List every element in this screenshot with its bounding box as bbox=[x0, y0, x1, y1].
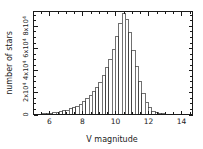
histogram-bar bbox=[63, 111, 66, 115]
y-axis-tick-labels: 02x1044x1046x1048x104 bbox=[22, 16, 30, 116]
histogram-bar bbox=[115, 37, 118, 115]
histogram-bar bbox=[109, 59, 112, 114]
histogram-bar bbox=[125, 19, 128, 114]
x-tick-label: 6 bbox=[47, 117, 52, 126]
y-axis-title: number of stars bbox=[5, 31, 14, 95]
histogram-bar bbox=[79, 104, 82, 114]
histogram-bar bbox=[119, 24, 122, 115]
y-tick-label: 6x104 bbox=[22, 38, 30, 58]
x-tick-label: 12 bbox=[144, 117, 154, 126]
y-tick-label: 2x104 bbox=[22, 83, 30, 103]
histogram-bar bbox=[139, 81, 142, 114]
y-tick-label: 0 bbox=[22, 112, 30, 116]
star-magnitude-histogram: 68101214 02x1044x1046x1048x104 V magnitu… bbox=[0, 0, 203, 149]
y-tick-label: 4x104 bbox=[22, 60, 30, 80]
histogram-bar bbox=[102, 76, 105, 115]
histogram-bar bbox=[112, 49, 115, 114]
histogram-bar bbox=[76, 106, 79, 114]
histogram-figure: 68101214 02x1044x1046x1048x104 V magnitu… bbox=[0, 0, 203, 149]
histogram-bar bbox=[86, 99, 89, 115]
histogram-bar bbox=[129, 33, 132, 115]
histogram-bar bbox=[145, 102, 148, 114]
x-tick-label: 14 bbox=[177, 117, 187, 126]
x-tick-label: 8 bbox=[80, 117, 85, 126]
histogram-bars bbox=[33, 14, 191, 115]
x-axis-title: V magnitude bbox=[86, 135, 137, 144]
x-axis-tick-labels: 68101214 bbox=[47, 117, 186, 126]
histogram-bar bbox=[132, 50, 135, 114]
histogram-bar bbox=[122, 14, 125, 115]
histogram-bar bbox=[89, 96, 92, 115]
y-tick-label: 8x104 bbox=[22, 16, 30, 36]
histogram-bar bbox=[135, 67, 138, 115]
histogram-bar bbox=[69, 109, 72, 115]
histogram-bar bbox=[96, 87, 99, 114]
histogram-bar bbox=[106, 68, 109, 115]
histogram-bar bbox=[142, 93, 145, 114]
histogram-bar bbox=[92, 92, 95, 115]
x-tick-label: 10 bbox=[111, 117, 121, 126]
histogram-bar bbox=[99, 82, 102, 114]
